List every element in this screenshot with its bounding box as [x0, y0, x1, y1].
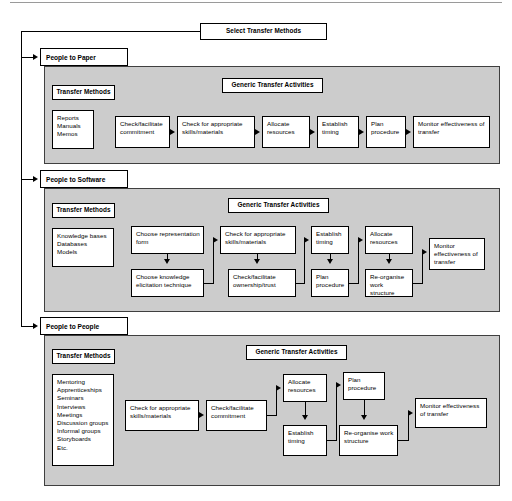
activity-box-p2paper-0: Check/facilitate commitment — [115, 116, 170, 148]
activity-line-p2ppl-1-2b — [276, 388, 277, 416]
methods-list-people-to-software: Knowledge bases Databases Models — [52, 228, 114, 267]
section-header-people-to-people: People to People — [40, 317, 128, 335]
activities-header-people-to-software: Generic Transfer Activities — [228, 198, 329, 213]
activities-header-people-to-paper: Generic Transfer Activities — [222, 78, 323, 93]
activity-box-p2soft-5: Plan procedure — [311, 269, 349, 297]
activity-arrow-p2soft-7-8 — [422, 249, 427, 255]
activity-box-p2ppl-6: Monitor effectiveness of transfer — [415, 398, 487, 428]
activity-line-p2soft-1-2b — [213, 240, 214, 284]
activity-arrow-p2paper-2-3 — [310, 129, 315, 135]
methods-list-people-to-paper: Reports Manuals Memos — [52, 110, 94, 149]
top-divider-rule — [10, 2, 502, 3]
activity-line-p2soft-2-3 — [257, 254, 258, 262]
section-header-people-to-software: People to Software — [40, 170, 128, 188]
activity-box-p2soft-2: Check for appropriate skills/materials — [220, 226, 296, 254]
activity-arrow-p2paper-1-2 — [255, 129, 260, 135]
activity-box-p2ppl-4: Plan procedure — [343, 372, 385, 400]
activity-arrow-p2ppl-0-1 — [199, 412, 204, 418]
activity-line-p2soft-4-5 — [330, 254, 331, 262]
activity-box-p2soft-0: Choose representation form — [131, 226, 204, 254]
activity-box-p2paper-5: Monitor effectiveness of transfer — [413, 116, 490, 148]
activity-line-p2ppl-3-4b — [336, 385, 337, 441]
activity-arrow-p2ppl-5-6 — [408, 410, 413, 416]
activity-box-p2paper-2: Allocate resources — [262, 116, 310, 148]
activity-box-p2soft-1: Choose knowledge elicitation technique — [131, 269, 204, 297]
activity-line-p2soft-5-6b — [358, 240, 359, 284]
methods-header-people-to-paper: Transfer Methods — [52, 85, 115, 100]
activity-box-p2ppl-2: Allocate resources — [283, 374, 327, 402]
activity-line-p2ppl-5-6b — [408, 413, 409, 441]
activity-arrow-p2paper-0-1 — [170, 129, 175, 135]
activity-line-p2soft-7-8b — [422, 252, 423, 284]
trunk-horizontal — [21, 31, 200, 32]
methods-header-people-to-people: Transfer Methods — [52, 349, 115, 364]
activity-arrow-p2soft-5-6 — [358, 237, 363, 243]
activity-arrow-p2ppl-3-4 — [336, 382, 341, 388]
activity-arrow-p2soft-1-2 — [213, 237, 218, 243]
activity-box-p2soft-8: Monitor effectiveness of transfer — [429, 238, 485, 270]
transfer-methods-diagram: Select Transfer Methods People to Paper … — [0, 0, 512, 501]
activity-arrow-p2paper-4-5 — [406, 129, 411, 135]
branch-arrow-section-1 — [33, 54, 38, 60]
activity-box-p2ppl-0: Check for appropriate skills/materials — [125, 400, 199, 431]
activity-line-p2soft-3-4b — [304, 240, 305, 284]
activity-box-p2ppl-3: Establish timing — [283, 425, 327, 456]
activity-arrow-p2paper-3-4 — [359, 129, 364, 135]
activity-box-p2soft-3: Check/facilitate ownership/trust — [228, 269, 296, 297]
activities-header-people-to-people: Generic Transfer Activities — [246, 345, 347, 360]
methods-header-people-to-software: Transfer Methods — [52, 203, 115, 218]
title-box-select-transfer-methods: Select Transfer Methods — [200, 23, 327, 40]
branch-arrow-section-2 — [33, 176, 38, 182]
activity-box-p2ppl-1: Check/facilitate commitment — [206, 400, 267, 431]
activity-box-p2paper-1: Check for appropriate skills/materials — [177, 116, 255, 148]
activity-line-p2soft-6-7 — [389, 254, 390, 262]
activity-box-p2soft-7: Re-organise work structure — [365, 269, 413, 297]
activity-box-p2paper-3: Establish timing — [317, 116, 359, 148]
activity-line-p2ppl-2-3 — [305, 402, 306, 417]
activity-line-p2ppl-4-5 — [364, 400, 365, 417]
activity-line-p2soft-0-1 — [167, 254, 168, 262]
activity-arrow-p2soft-3-4 — [304, 237, 309, 243]
branch-arrow-section-3 — [33, 323, 38, 329]
activity-box-p2soft-6: Allocate resources — [365, 226, 413, 254]
methods-list-people-to-people: Mentoring Apprenticeships Seminars Inter… — [52, 374, 114, 466]
activity-box-p2ppl-5: Re-organise work structure — [339, 425, 398, 456]
activity-box-p2soft-4: Establish timing — [311, 226, 349, 254]
activity-box-p2paper-4: Plan procedure — [366, 116, 406, 148]
section-header-people-to-paper: People to Paper — [40, 48, 128, 66]
activity-arrow-p2ppl-1-2 — [276, 385, 281, 391]
